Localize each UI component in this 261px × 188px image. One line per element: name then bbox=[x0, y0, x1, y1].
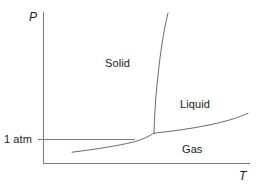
region-label-solid: Solid bbox=[105, 58, 130, 69]
sublimation-curve bbox=[72, 133, 154, 152]
phase-diagram-figure: P T 1 atm Solid Liquid Gas bbox=[0, 0, 261, 188]
x-axis-label: T bbox=[239, 170, 246, 182]
fusion-curve bbox=[154, 13, 168, 133]
y-axis-tick-label-1atm: 1 atm bbox=[4, 134, 32, 145]
vaporization-curve bbox=[154, 113, 248, 133]
phase-diagram-plot bbox=[0, 0, 261, 188]
region-label-gas: Gas bbox=[182, 144, 202, 155]
y-axis-label: P bbox=[29, 11, 37, 23]
region-label-liquid: Liquid bbox=[180, 99, 210, 110]
